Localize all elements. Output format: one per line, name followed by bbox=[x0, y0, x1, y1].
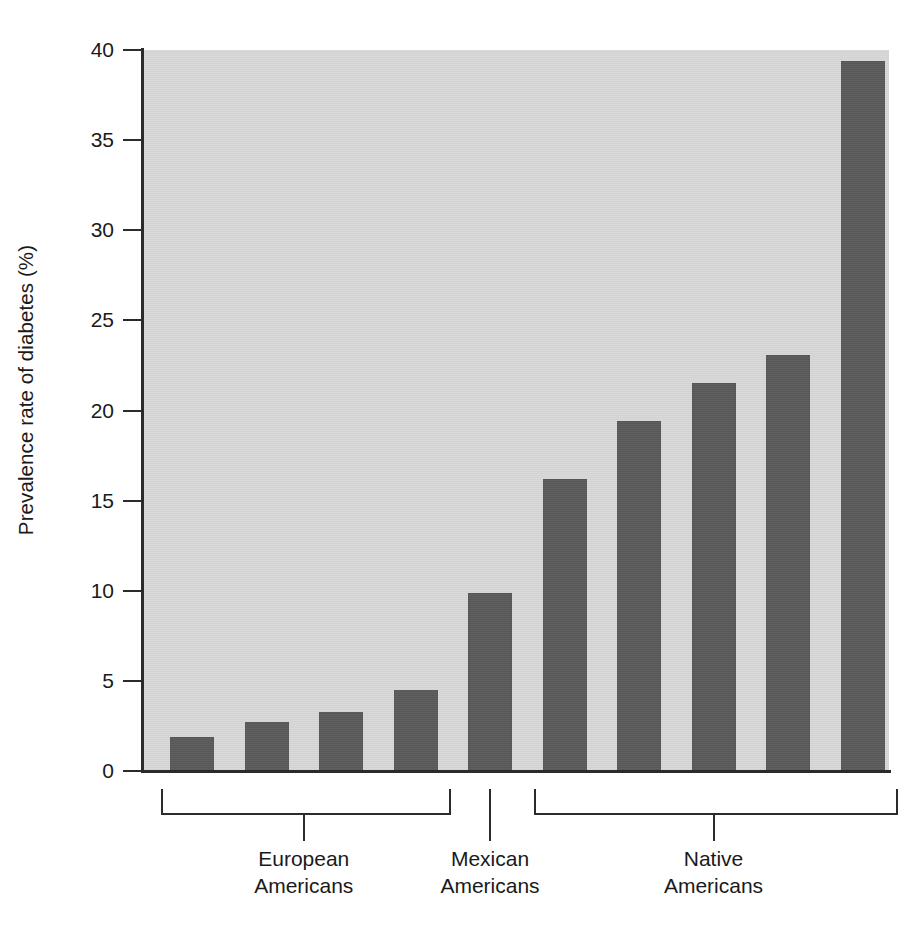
y-axis-tick bbox=[123, 770, 142, 772]
x-axis-line bbox=[141, 770, 891, 773]
bar bbox=[692, 383, 736, 771]
y-axis-tick bbox=[123, 49, 142, 51]
y-axis-tick bbox=[123, 410, 142, 412]
bar bbox=[617, 421, 661, 771]
y-axis-tick bbox=[123, 229, 142, 231]
bar bbox=[543, 479, 587, 771]
y-axis-tick-label: 20 bbox=[54, 400, 114, 421]
bar bbox=[170, 737, 214, 771]
group-label-line1: Native bbox=[564, 845, 864, 872]
y-axis-tick-label: 5 bbox=[54, 670, 114, 691]
y-axis-tick bbox=[123, 139, 142, 141]
group-label-line2: Americans bbox=[564, 872, 864, 899]
group-bracket-stem bbox=[489, 789, 491, 841]
bar bbox=[394, 690, 438, 771]
bar bbox=[468, 593, 512, 771]
y-axis-tick-label: 15 bbox=[54, 490, 114, 511]
y-axis-tick bbox=[123, 319, 142, 321]
diabetes-prevalence-bar-chart: Prevalence rate of diabetes (%) 40353025… bbox=[0, 0, 920, 925]
y-axis-tick bbox=[123, 500, 142, 502]
bar bbox=[319, 712, 363, 771]
y-axis-tick-label: 30 bbox=[54, 219, 114, 240]
y-axis-tick-label: 35 bbox=[54, 129, 114, 150]
group-bracket-stem bbox=[713, 813, 715, 841]
y-axis-tick-label: 0 bbox=[54, 760, 114, 781]
group-bracket bbox=[534, 789, 898, 815]
bar bbox=[245, 722, 289, 771]
y-axis-tick-label: 40 bbox=[54, 39, 114, 60]
group-bracket bbox=[161, 789, 451, 815]
y-axis-tick-label: 25 bbox=[54, 309, 114, 330]
y-axis-tick bbox=[123, 590, 142, 592]
group-bracket-stem bbox=[303, 813, 305, 841]
bar bbox=[841, 61, 885, 771]
bar bbox=[766, 355, 810, 771]
group-label-native: NativeAmericans bbox=[564, 845, 864, 899]
y-axis-tick-label: 10 bbox=[54, 580, 114, 601]
plot-area bbox=[143, 50, 889, 771]
y-axis-tick-labels: 4035302520151050 bbox=[52, 0, 114, 925]
y-axis-tick bbox=[123, 680, 142, 682]
